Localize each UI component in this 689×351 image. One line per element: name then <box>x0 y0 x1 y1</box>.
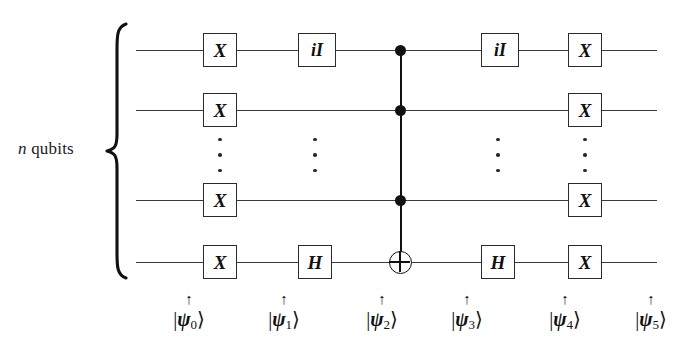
state-arrow-icon-4: ↑ <box>529 293 601 307</box>
state-ket-label-5: |ψ5⟩ <box>615 307 687 337</box>
control-dot-row0[interactable] <box>395 45 406 56</box>
state-arrow-icon-0: ↑ <box>153 293 225 307</box>
qubit-group-brace <box>104 22 130 280</box>
state-marker-4: ↑ |ψ4⟩ <box>529 293 601 337</box>
state-marker-2: ↑ |ψ2⟩ <box>346 293 418 337</box>
gate-h-row3-col1[interactable]: H <box>298 245 332 279</box>
state-arrow-icon-3: ↑ <box>431 293 503 307</box>
cnot-target-icon[interactable] <box>389 251 412 274</box>
gate-x-row3-col4[interactable]: X <box>568 245 602 279</box>
gate-ii-row0-col1[interactable]: iI <box>298 33 336 67</box>
state-marker-5: ↑ |ψ5⟩ <box>615 293 687 337</box>
qubit-count-symbol: n <box>18 139 27 158</box>
vertical-ellipsis-col1 <box>312 138 318 172</box>
qubit-count-label: n qubits <box>18 139 74 159</box>
gate-x-row0-col0[interactable]: X <box>203 33 237 67</box>
gate-x-row1-col4[interactable]: X <box>568 93 602 127</box>
state-marker-0: ↑ |ψ0⟩ <box>153 293 225 337</box>
control-dot-row1[interactable] <box>395 105 406 116</box>
gate-x-row3-col0[interactable]: X <box>203 245 237 279</box>
quantum-circuit-figure: n qubits X iI iI X X X X X X H H X <box>0 0 689 351</box>
vertical-ellipsis-col0 <box>217 138 223 172</box>
qubit-count-text: qubits <box>31 139 74 158</box>
gate-x-row0-col4[interactable]: X <box>568 33 602 67</box>
control-dot-row2[interactable] <box>395 195 406 206</box>
gate-x-row2-col4[interactable]: X <box>568 183 602 217</box>
state-marker-3: ↑ |ψ3⟩ <box>431 293 503 337</box>
gate-x-row1-col0[interactable]: X <box>203 93 237 127</box>
control-bus-line <box>400 50 402 262</box>
gate-ii-row0-col3[interactable]: iI <box>481 33 519 67</box>
state-ket-label-0: |ψ0⟩ <box>153 307 225 337</box>
state-ket-label-4: |ψ4⟩ <box>529 307 601 337</box>
state-ket-label-2: |ψ2⟩ <box>346 307 418 337</box>
state-ket-label-3: |ψ3⟩ <box>431 307 503 337</box>
state-arrow-icon-2: ↑ <box>346 293 418 307</box>
gate-h-row3-col3[interactable]: H <box>481 245 515 279</box>
vertical-ellipsis-col3 <box>495 138 501 172</box>
state-ket-label-1: |ψ1⟩ <box>248 307 320 337</box>
gate-x-row2-col0[interactable]: X <box>203 183 237 217</box>
state-marker-1: ↑ |ψ1⟩ <box>248 293 320 337</box>
state-arrow-icon-5: ↑ <box>615 293 687 307</box>
state-arrow-icon-1: ↑ <box>248 293 320 307</box>
vertical-ellipsis-col4 <box>582 138 588 172</box>
